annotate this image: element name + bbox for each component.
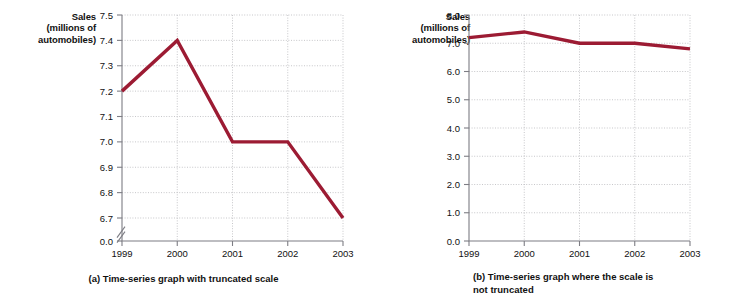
- figure-container: Sales (millions of automobiles) 7.57.47.…: [0, 0, 735, 306]
- y-tick-label: 6.7: [100, 213, 113, 224]
- x-tick-label: 2001: [569, 248, 590, 259]
- y-tick-label: 6.0: [447, 66, 460, 77]
- chart-panel-b: Sales (millions of automobiles) 8.07.06.…: [368, 0, 735, 306]
- x-tick-label: 2002: [624, 248, 645, 259]
- y-tick-label: 5.0: [447, 94, 460, 105]
- x-tick-label: 2000: [167, 248, 188, 259]
- x-tick-label: 1999: [458, 248, 479, 259]
- x-tick-label: 2003: [679, 248, 700, 259]
- y-tick-label: 6.8: [100, 187, 113, 198]
- x-tick-label: 1999: [111, 248, 132, 259]
- chart-caption-a: (a) Time-series graph with truncated sca…: [0, 272, 367, 285]
- y-tick-label: 8.0: [447, 10, 460, 21]
- x-tick-label: 2001: [222, 248, 243, 259]
- y-tick-label: 7.5: [100, 10, 113, 21]
- axis-break-mark-upper: [117, 227, 125, 238]
- chart-panel-a: Sales (millions of automobiles) 7.57.47.…: [0, 0, 367, 306]
- y-tick-label: 0.0: [447, 236, 460, 247]
- y-tick-label: 1.0: [447, 207, 460, 218]
- time-series-chart-full-scale: 8.07.06.05.04.03.02.01.00.01999200020012…: [368, 0, 735, 306]
- y-tick-label: 7.1: [100, 111, 113, 122]
- y-tick-label: 7.0: [447, 38, 460, 49]
- chart-caption-b: (b) Time-series graph where the scale is…: [473, 270, 723, 296]
- y-tick-label: 7.0: [100, 136, 113, 147]
- x-tick-label: 2003: [332, 248, 353, 259]
- x-tick-label: 2000: [514, 248, 535, 259]
- y-tick-label: 7.3: [100, 60, 113, 71]
- y-tick-label: 0.0: [100, 236, 113, 247]
- y-tick-label: 6.9: [100, 162, 113, 173]
- y-tick-label: 7.2: [100, 86, 113, 97]
- x-tick-label: 2002: [277, 248, 298, 259]
- time-series-chart-truncated: 7.57.47.37.27.17.06.96.86.70.01999200020…: [0, 0, 367, 306]
- y-tick-label: 4.0: [447, 123, 460, 134]
- y-tick-label: 3.0: [447, 151, 460, 162]
- y-tick-label: 2.0: [447, 179, 460, 190]
- y-tick-label: 7.4: [100, 35, 113, 46]
